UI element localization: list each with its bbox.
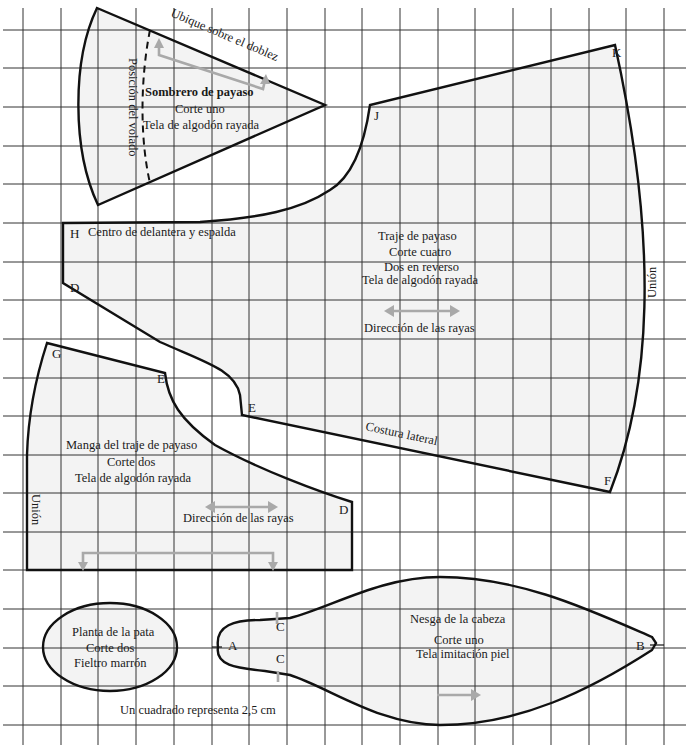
suit-join-label: Unión [645, 266, 659, 298]
sleeve-cut: Corte dos [107, 455, 155, 469]
point-c-upper: C [276, 619, 285, 634]
suit-center-note: Centro de delantera y espalda [88, 225, 236, 239]
scale-note: Un cuadrado representa 2,5 cm [120, 703, 276, 717]
hat-cut: Corte uno [175, 102, 225, 116]
suit-fabric: Tela de algodón rayada [362, 273, 479, 287]
point-k: K [612, 45, 622, 60]
hat-fabric: Tela de algodón rayada [143, 118, 260, 132]
gusset-cut: Corte uno [434, 633, 484, 647]
point-d-sleeve: D [339, 502, 348, 517]
point-b: B [636, 638, 645, 653]
paw-cut: Corte dos [86, 641, 134, 655]
sleeve-grain-label: Dirección de las rayas [183, 511, 294, 525]
point-f: F [604, 473, 611, 488]
sleeve-join-label: Unión [29, 494, 43, 526]
point-g: G [52, 346, 61, 361]
paw-fabric: Fieltro marrón [74, 656, 147, 670]
sleeve-fabric: Tela de algodón rayada [75, 471, 192, 485]
suit-grain-label: Dirección de las rayas [364, 321, 475, 335]
piece-fills [27, 8, 656, 725]
gusset-title: Nesga de la cabeza [410, 612, 506, 626]
paw-title: Planta de la pata [72, 625, 155, 639]
point-e-suit: E [248, 400, 256, 415]
hat-ruffle-note: Posición del volado [126, 58, 140, 157]
point-c-lower: C [276, 651, 285, 666]
hat-title: Sombrero de payaso [145, 85, 254, 99]
suit-title: Traje de payaso [378, 229, 457, 243]
sleeve-title: Manga del traje de payaso [66, 438, 197, 452]
point-d-suit: D [70, 280, 79, 295]
sewing-pattern-diagram: Ubique sobre el doblez Posición del vola… [0, 0, 691, 751]
suit-cut: Corte cuatro [389, 245, 451, 259]
point-j: J [374, 108, 379, 123]
gusset-fabric: Tela imitación piel [416, 647, 510, 661]
point-a: A [228, 638, 238, 653]
suit-reverse: Dos en reverso [384, 260, 459, 274]
point-e-sleeve: E [157, 371, 165, 386]
point-h: H [70, 226, 79, 241]
